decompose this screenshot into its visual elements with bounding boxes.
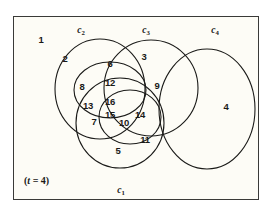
set-label-c1: c1: [117, 186, 125, 196]
set-label-c1-index: 1: [121, 189, 124, 196]
set-label-c4: c4: [211, 26, 219, 36]
set-label-c3-index: 3: [146, 29, 149, 36]
region-label: 4: [223, 102, 228, 112]
region-label: 6: [107, 59, 112, 69]
region-label: 8: [79, 82, 84, 92]
region-label: 7: [91, 117, 96, 127]
region-label: 3: [141, 52, 146, 62]
region-label: 12: [105, 78, 115, 88]
region-label: 9: [154, 81, 159, 91]
set-outline-c4: [159, 49, 255, 169]
set-label-c3: c3: [142, 26, 150, 36]
region-label: 1: [38, 35, 43, 45]
region-label: 2: [62, 54, 67, 64]
region-label: 10: [119, 118, 129, 128]
region-label: 5: [115, 146, 120, 156]
region-label: 16: [105, 97, 115, 107]
region-label: 15: [105, 110, 115, 120]
figure-border: 1 2 3 4 5 6 7 8 9 10 11 12 13 14 15 16 c…: [13, 16, 259, 200]
set-label-c2-index: 2: [81, 29, 84, 36]
region-label: 11: [140, 135, 150, 145]
region-label: 13: [83, 101, 93, 111]
set-label-c4-index: 4: [215, 29, 218, 36]
set-label-c2: c2: [77, 26, 85, 36]
threshold-note: (t = 4): [24, 175, 49, 186]
threshold-note-rest: = 4): [30, 175, 49, 186]
figure-canvas: 1 2 3 4 5 6 7 8 9 10 11 12 13 14 15 16 c…: [0, 0, 273, 214]
region-label: 14: [135, 110, 145, 120]
